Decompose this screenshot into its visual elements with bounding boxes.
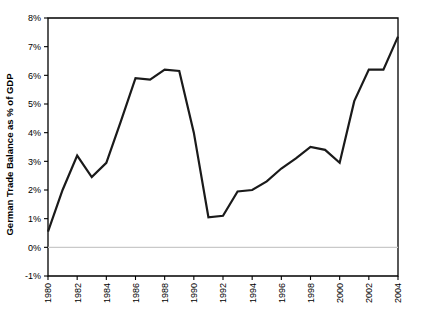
y-tick-label: 7% bbox=[28, 42, 41, 52]
y-tick-label: 2% bbox=[28, 185, 41, 195]
x-tick-label: 1982 bbox=[73, 283, 83, 303]
y-tick-label: 1% bbox=[28, 214, 41, 224]
x-tick-label: 1988 bbox=[160, 283, 170, 303]
y-tick-label: -1% bbox=[25, 271, 41, 281]
x-tick-label: 1998 bbox=[306, 283, 316, 303]
y-tick-label: 3% bbox=[28, 157, 41, 167]
y-tick-label: 5% bbox=[28, 99, 41, 109]
x-tick-label: 1986 bbox=[131, 283, 141, 303]
x-axis-tick-group: 1980198219841986198819901992199419961998… bbox=[43, 276, 403, 303]
y-axis-tick-group: 8%7%6%5%4%3%2%1%0%-1% bbox=[25, 13, 48, 281]
chart-container: German Trade Balance as % of GDP 8%7%6%5… bbox=[0, 0, 430, 309]
series-line-0 bbox=[48, 37, 398, 232]
x-tick-label: 2004 bbox=[393, 283, 403, 303]
y-tick-label: 8% bbox=[28, 13, 41, 23]
line-chart-plot: 8%7%6%5%4%3%2%1%0%-1% 198019821984198619… bbox=[0, 0, 430, 309]
x-tick-label: 1996 bbox=[277, 283, 287, 303]
axis-frame bbox=[48, 18, 398, 276]
x-tick-label: 1992 bbox=[218, 283, 228, 303]
x-tick-label: 2002 bbox=[364, 283, 374, 303]
plot-border bbox=[48, 18, 398, 276]
x-tick-label: 2000 bbox=[335, 283, 345, 303]
x-tick-label: 1990 bbox=[189, 283, 199, 303]
x-tick-label: 1994 bbox=[248, 283, 258, 303]
y-tick-label: 4% bbox=[28, 128, 41, 138]
y-tick-label: 6% bbox=[28, 71, 41, 81]
y-tick-label: 0% bbox=[28, 243, 41, 253]
data-series-group bbox=[48, 37, 398, 232]
x-tick-label: 1980 bbox=[43, 283, 53, 303]
x-tick-label: 1984 bbox=[102, 283, 112, 303]
